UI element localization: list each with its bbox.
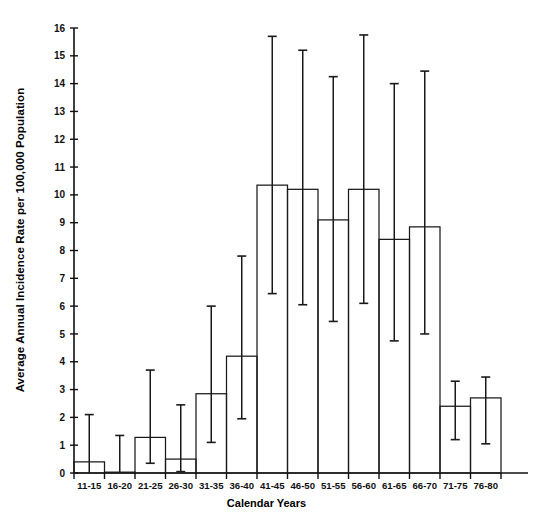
- y-tick-label: 9: [59, 217, 65, 228]
- x-tick-label: 31-35: [199, 480, 224, 491]
- x-tick-label: 11-15: [77, 480, 102, 491]
- x-tick-label: 56-60: [351, 480, 376, 491]
- y-tick-label: 2: [59, 412, 65, 423]
- y-tick-label: 16: [54, 23, 66, 34]
- y-tick-label: 0: [59, 468, 65, 479]
- x-tick-label: 76-80: [473, 480, 498, 491]
- y-tick-label: 11: [54, 162, 65, 173]
- y-tick-label: 7: [59, 273, 65, 284]
- x-tick-label: 36-40: [229, 480, 254, 491]
- chart-plot-area: 012345678910111213141516 11-1516-2021-25…: [0, 0, 533, 500]
- x-axis-ticks: [74, 473, 501, 479]
- x-tick-label: 61-65: [382, 480, 407, 491]
- y-tick-label: 15: [54, 50, 66, 61]
- bar-series: [74, 185, 501, 473]
- x-tick-label: 26-30: [168, 480, 193, 491]
- x-tick-label: 66-70: [412, 480, 437, 491]
- y-tick-label: 8: [59, 245, 65, 256]
- y-tick-label: 14: [54, 78, 66, 89]
- y-tick-label: 12: [54, 134, 66, 145]
- x-tick-label: 41-45: [260, 480, 285, 491]
- y-tick-label: 13: [54, 106, 66, 117]
- chart-container: Average Annual Incidence Rate per 100,00…: [0, 0, 533, 530]
- y-tick-label: 4: [59, 356, 65, 367]
- x-tick-label: 51-55: [321, 480, 346, 491]
- y-tick-label: 3: [59, 384, 65, 395]
- x-tick-label: 21-25: [138, 480, 163, 491]
- x-tick-label: 16-20: [107, 480, 132, 491]
- y-tick-label: 6: [59, 301, 65, 312]
- x-axis-title: Calendar Years: [0, 497, 533, 509]
- x-tick-label: 46-50: [290, 480, 315, 491]
- x-axis-tick-labels: 11-1516-2021-2526-3031-3536-4041-4546-50…: [77, 480, 498, 491]
- y-tick-label: 10: [54, 189, 66, 200]
- y-tick-label: 1: [59, 440, 65, 451]
- x-tick-label: 71-75: [443, 480, 468, 491]
- y-tick-label: 5: [59, 329, 65, 340]
